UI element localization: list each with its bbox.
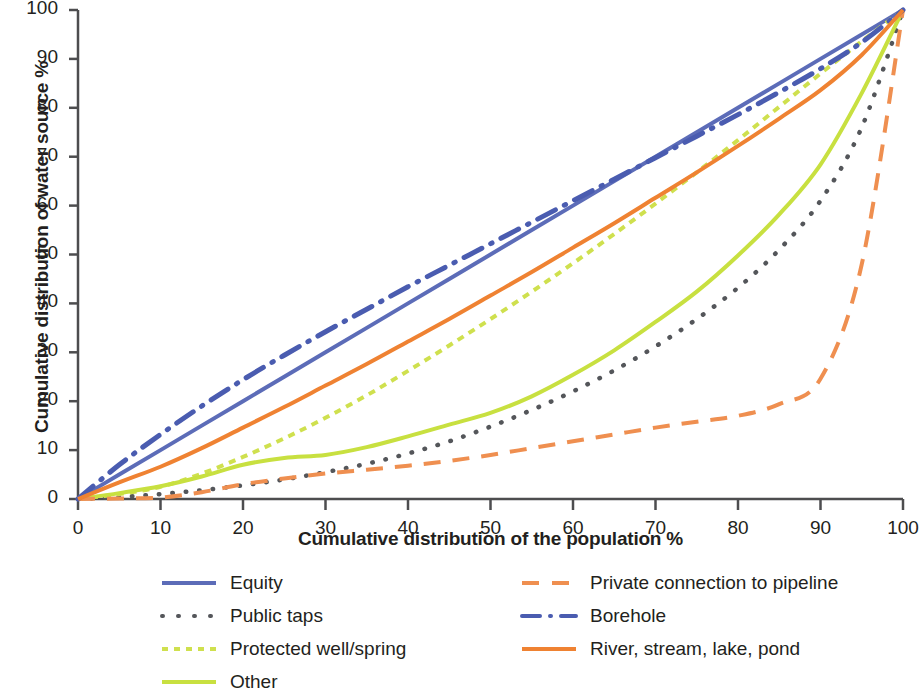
x-axis-tick-label: 100 — [873, 517, 920, 539]
x-axis-tick-label: 60 — [543, 517, 603, 539]
legend-label-private-connection: Private connection to pipeline — [590, 573, 838, 592]
y-axis-tick-label: 0 — [8, 486, 58, 508]
plot-area — [0, 0, 920, 560]
legend-label-protected-well-spring: Protected well/spring — [230, 639, 406, 658]
legend-item-equity[interactable]: Equity — [160, 573, 283, 592]
y-axis-tick-label: 80 — [8, 95, 58, 117]
legend-label-public-taps: Public taps — [230, 606, 323, 625]
legend-item-other[interactable]: Other — [160, 672, 278, 691]
legend-swatch-public-taps — [160, 609, 218, 623]
y-axis-tick-label: 10 — [8, 437, 58, 459]
legend-label-other: Other — [230, 672, 278, 691]
y-axis-tick-label: 50 — [8, 242, 58, 264]
x-axis-tick-label: 70 — [626, 517, 686, 539]
legend-item-public-taps[interactable]: Public taps — [160, 606, 323, 625]
y-axis-tick-label: 60 — [8, 193, 58, 215]
y-axis-tick-label: 70 — [8, 144, 58, 166]
x-axis-tick-label: 20 — [213, 517, 273, 539]
x-axis-tick-label: 30 — [296, 517, 356, 539]
y-axis-tick-label: 100 — [8, 0, 58, 19]
legend-label-river-stream-lake-pond: River, stream, lake, pond — [590, 639, 800, 658]
legend-item-private-connection[interactable]: Private connection to pipeline — [520, 573, 838, 592]
y-axis-tick-label: 30 — [8, 339, 58, 361]
legend-label-borehole: Borehole — [590, 606, 666, 625]
legend-swatch-protected-well-spring — [160, 642, 218, 656]
x-axis-tick-label: 90 — [791, 517, 851, 539]
x-axis-tick-label: 0 — [48, 517, 108, 539]
x-axis-tick-label: 40 — [378, 517, 438, 539]
x-axis-tick-label: 50 — [461, 517, 521, 539]
y-axis-tick-label: 90 — [8, 46, 58, 68]
legend-item-protected-well-spring[interactable]: Protected well/spring — [160, 639, 406, 658]
x-axis-tick-label: 80 — [708, 517, 768, 539]
legend-swatch-other — [160, 675, 218, 689]
y-axis-tick-label: 20 — [8, 388, 58, 410]
legend-swatch-river-stream-lake-pond — [520, 642, 578, 656]
legend-label-equity: Equity — [230, 573, 283, 592]
legend-item-borehole[interactable]: Borehole — [520, 606, 666, 625]
x-axis-tick-label: 10 — [131, 517, 191, 539]
legend-item-river-stream-lake-pond[interactable]: River, stream, lake, pond — [520, 639, 800, 658]
legend-swatch-equity — [160, 576, 218, 590]
chart-legend: Equity Public taps Protected well/spring… — [0, 565, 920, 672]
legend-swatch-borehole — [520, 609, 578, 623]
legend-swatch-private-connection — [520, 576, 578, 590]
y-axis-tick-label: 40 — [8, 290, 58, 312]
